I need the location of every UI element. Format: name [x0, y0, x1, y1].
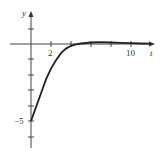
- x-tick-label-2: 2: [48, 48, 53, 58]
- x-axis-label: t: [150, 48, 153, 58]
- y-tick-label-neg5: −5: [14, 116, 24, 126]
- chart: y t 2 10 −5: [0, 0, 164, 151]
- y-axis-arrow-icon: [29, 11, 34, 17]
- x-tick-label-10: 10: [126, 48, 136, 58]
- y-axis-label: y: [21, 8, 26, 18]
